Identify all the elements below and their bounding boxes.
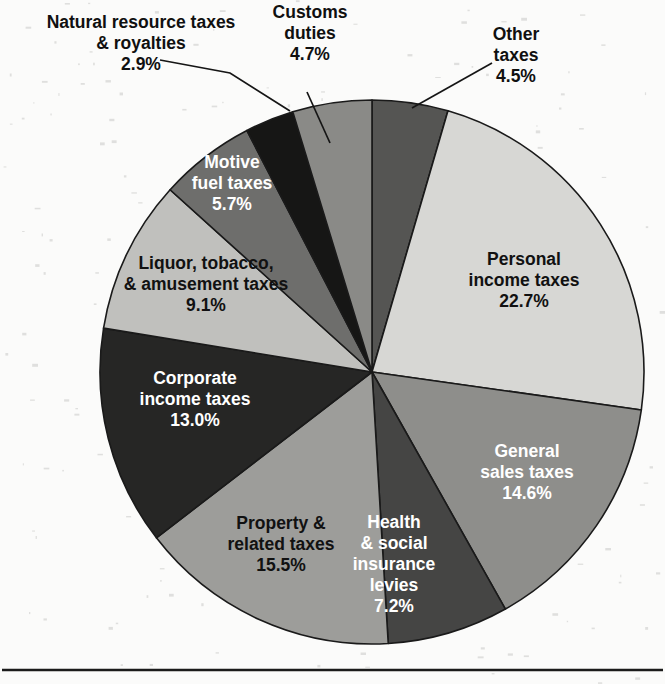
speckle-mark: [193, 44, 198, 46]
speckle-mark: [124, 175, 127, 177]
speckle-mark: [78, 63, 80, 65]
speckle-mark: [95, 272, 99, 274]
speckle-mark: [100, 142, 105, 145]
speckle-mark: [288, 104, 290, 107]
speckle-mark: [22, 118, 25, 120]
speckle-mark: [131, 192, 137, 193]
speckle-mark: [536, 130, 540, 133]
speckle-mark: [561, 93, 565, 95]
slice-name-line-natural-resource-taxes-royalties: Natural resource taxes: [47, 12, 236, 32]
slice-name-line-property-related-taxes: related taxes: [227, 534, 334, 554]
speckle-mark: [26, 27, 32, 29]
speckle-mark: [492, 673, 495, 674]
slice-value-property-related-taxes: 15.5%: [256, 555, 306, 575]
speckle-mark: [521, 18, 527, 21]
slice-name-line-motive-fuel-taxes: fuel taxes: [192, 173, 273, 193]
slice-name-line-motive-fuel-taxes: Motive: [204, 152, 260, 172]
speckle-mark: [30, 400, 35, 401]
speckle-mark: [150, 664, 153, 666]
speckle-mark: [640, 504, 645, 506]
slice-name-line-personal-income-taxes: income taxes: [469, 270, 580, 290]
speckle-mark: [361, 653, 366, 656]
speckle-mark: [10, 74, 12, 77]
speckle-mark: [36, 536, 37, 539]
speckle-mark: [32, 364, 38, 367]
speckle-mark: [138, 202, 142, 203]
speckle-mark: [32, 531, 35, 532]
slice-name-line-health-social-insurance-levies: insurance: [353, 554, 436, 574]
speckle-mark: [353, 24, 357, 25]
speckle-mark: [646, 226, 648, 228]
speckle-mark: [44, 618, 47, 620]
speckle-mark: [645, 627, 648, 630]
speckle-mark: [222, 102, 223, 103]
speckle-mark: [58, 93, 59, 96]
speckle-mark: [112, 140, 117, 143]
speckle-mark: [109, 119, 114, 121]
slice-value-other-taxes: 4.5%: [496, 66, 536, 86]
slice-value-natural-resource-taxes-royalties: 2.9%: [121, 54, 161, 74]
speckle-mark: [435, 77, 441, 78]
speckle-mark: [22, 231, 25, 232]
slice-name-line-health-social-insurance-levies: Health: [367, 512, 420, 532]
speckle-mark: [4, 166, 7, 167]
speckle-mark: [568, 71, 569, 73]
speckle-mark: [524, 655, 529, 657]
speckle-mark: [660, 311, 665, 314]
speckle-mark: [182, 109, 186, 111]
speckle-mark: [579, 128, 584, 130]
speckle-mark: [44, 468, 50, 470]
speckle-mark: [645, 92, 646, 95]
speckle-mark: [42, 81, 48, 83]
speckle-mark: [317, 665, 320, 668]
speckle-mark: [93, 63, 95, 66]
speckle-mark: [106, 80, 111, 82]
speckle-mark: [98, 454, 103, 456]
chart-page: Othertaxes4.5%Personalincome taxes22.7%G…: [0, 0, 665, 684]
speckle-mark: [33, 102, 34, 103]
speckle-mark: [44, 272, 46, 275]
slice-value-liquor-tobacco-amusement-taxes: 9.1%: [186, 295, 226, 315]
slice-name-line-general-sales-taxes: General: [494, 441, 559, 461]
speckle-mark: [169, 594, 174, 597]
speckle-mark: [601, 44, 605, 46]
speckle-mark: [107, 238, 111, 241]
speckle-mark: [64, 399, 69, 401]
speckle-mark: [635, 677, 640, 679]
speckle-mark: [126, 516, 131, 517]
speckle-mark: [120, 93, 123, 96]
speckle-mark: [454, 63, 459, 65]
speckle-mark: [486, 74, 489, 76]
speckle-mark: [656, 572, 660, 574]
slice-name-line-health-social-insurance-levies: levies: [370, 575, 419, 595]
speckle-mark: [90, 51, 93, 52]
speckle-mark: [160, 580, 162, 581]
speckle-mark: [62, 470, 64, 472]
speckle-mark: [605, 548, 611, 550]
speckle-mark: [468, 10, 470, 12]
speckle-mark: [201, 603, 203, 606]
slice-name-line-personal-income-taxes: Personal: [487, 249, 561, 269]
speckle-mark: [619, 582, 622, 584]
speckle-mark: [461, 21, 467, 24]
speckle-mark: [508, 653, 513, 655]
speckle-mark: [552, 613, 558, 616]
speckle-mark: [538, 147, 543, 149]
pie-chart: Othertaxes4.5%Personalincome taxes22.7%G…: [0, 0, 665, 684]
speckle-mark: [147, 595, 149, 598]
speckle-mark: [212, 106, 218, 108]
slice-name-line-general-sales-taxes: sales taxes: [480, 462, 574, 482]
speckle-mark: [94, 303, 97, 305]
slice-value-personal-income-taxes: 22.7%: [499, 291, 549, 311]
speckle-mark: [116, 623, 118, 625]
speckle-mark: [472, 66, 474, 68]
slice-name-line-property-related-taxes: Property &: [236, 513, 326, 533]
slice-value-general-sales-taxes: 14.6%: [502, 483, 552, 503]
slice-name-line-natural-resource-taxes-royalties: & royalties: [96, 33, 186, 53]
speckle-mark: [321, 98, 322, 101]
speckle-mark: [50, 114, 51, 116]
slice-name-line-liquor-tobacco-amusement-taxes: & amusement taxes: [124, 274, 289, 294]
slice-label-other-taxes: Othertaxes4.5%: [493, 24, 540, 86]
speckle-mark: [620, 575, 621, 578]
speckle-mark: [321, 91, 325, 92]
